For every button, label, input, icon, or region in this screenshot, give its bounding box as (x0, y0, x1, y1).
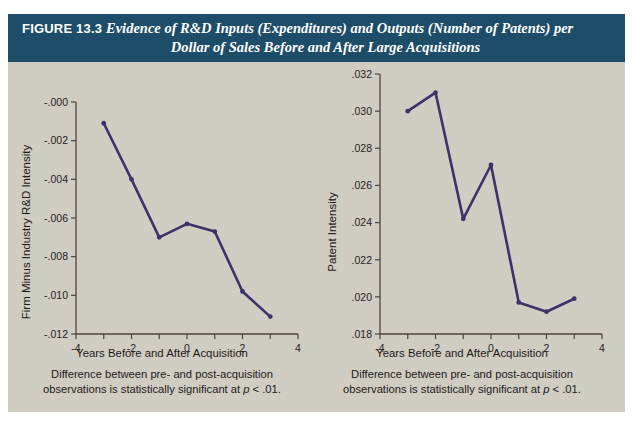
patent-data-line (408, 93, 575, 312)
rd-y-tick-label: -.000 (44, 96, 68, 108)
patent-caption-line-2-b: < .01. (550, 383, 581, 395)
figure-title-line-1: Evidence of R&D Inputs (Expenditures) an… (106, 20, 573, 36)
charts-area: -.000-.002-.004-.006-.008-.010-.012-4-20… (8, 62, 625, 412)
patent-data-point (572, 296, 577, 301)
figure-header-line-1: FIGURE 13.3 Evidence of R&D Inputs (Expe… (22, 19, 611, 38)
figure-header-bar: FIGURE 13.3 Evidence of R&D Inputs (Expe… (8, 14, 625, 62)
rd-data-point (101, 121, 106, 126)
patent-series-group (405, 90, 576, 314)
rd-y-tick-label: -.006 (44, 212, 68, 224)
rd-y-tick-label: -.008 (44, 250, 68, 262)
rd-intensity-plot: -.000-.002-.004-.006-.008-.010-.012-4-20… (8, 62, 316, 352)
rd-caption-line-1: Difference between pre- and post-acquisi… (8, 367, 316, 382)
patent-caption-line-2-a: observations is statistically significan… (343, 383, 543, 395)
patent-y-tick-label: .026 (352, 179, 373, 191)
rd-caption-line-2-a: observations is statistically significan… (43, 383, 243, 395)
patent-y-tick-label: .030 (352, 105, 373, 117)
patent-caption-line-2: observations is statistically significan… (308, 382, 616, 397)
patent-y-tick-label: .022 (352, 254, 373, 266)
rd-y-tick-label: -.012 (44, 328, 68, 340)
figure-title-line-2: Dollar of Sales Before and After Large A… (171, 39, 480, 55)
patent-y-tick-label: .024 (352, 216, 373, 228)
patent-caption-line-1: Difference between pre- and post-acquisi… (308, 367, 616, 382)
rd-data-point (185, 221, 190, 226)
rd-caption-line-2: observations is statistically significan… (8, 382, 316, 397)
rd-data-line (104, 123, 271, 316)
patent-data-point (489, 163, 494, 168)
rd-caption: Difference between pre- and post-acquisi… (8, 367, 316, 396)
patent-data-point (516, 300, 521, 305)
patent-data-point (405, 109, 410, 114)
chart-patent-intensity: .032.030.028.026.024.022.020.018-4-2024 … (308, 62, 616, 412)
rd-data-point (240, 289, 245, 294)
rd-axes-group: -.000-.002-.004-.006-.008-.010-.012-4-20… (44, 96, 301, 352)
patent-y-tick-label: .028 (352, 142, 373, 154)
rd-caption-line-2-b: < .01. (250, 383, 281, 395)
patent-y-tick-label: .032 (352, 68, 373, 80)
patent-y-tick-label: .020 (352, 291, 373, 303)
figure-number-label: FIGURE 13.3 (22, 21, 102, 36)
patent-data-point (433, 90, 438, 95)
patent-data-point (544, 309, 549, 314)
patent-x-axis-title: Years Before and After Acquisition (308, 347, 616, 359)
rd-y-tick-label: -.002 (44, 134, 68, 146)
rd-y-tick-label: -.010 (44, 289, 68, 301)
rd-data-point (157, 235, 162, 240)
patent-data-point (461, 216, 466, 221)
rd-data-point (129, 177, 134, 182)
rd-data-point (268, 314, 273, 319)
figure-header-line-2: Dollar of Sales Before and After Large A… (22, 38, 611, 57)
patent-y-axis-title: Patent Intensity (326, 192, 338, 272)
rd-y-tick-label: -.004 (44, 173, 68, 185)
patent-caption: Difference between pre- and post-acquisi… (308, 367, 616, 396)
rd-y-axis-title: Firm Minus Industry R&D Intensity (20, 145, 32, 320)
chart-rd-intensity: -.000-.002-.004-.006-.008-.010-.012-4-20… (8, 62, 316, 412)
rd-series-group (101, 121, 272, 319)
patent-axes-group: .032.030.028.026.024.022.020.018-4-2024 (352, 68, 606, 352)
rd-data-point (212, 229, 217, 234)
patent-intensity-plot: .032.030.028.026.024.022.020.018-4-2024 … (308, 62, 616, 352)
figure-container: FIGURE 13.3 Evidence of R&D Inputs (Expe… (0, 0, 633, 427)
rd-x-axis-title: Years Before and After Acquisition (8, 347, 316, 359)
patent-y-tick-label: .018 (352, 328, 373, 340)
